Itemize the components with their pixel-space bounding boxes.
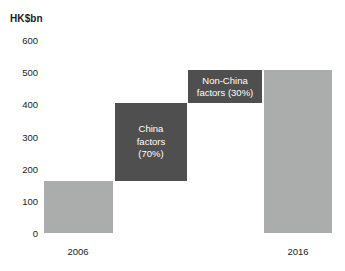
x-tick-2006: 2006 bbox=[67, 246, 88, 257]
bar-non-china-factors: Non-China factors (30%) bbox=[188, 70, 262, 103]
x-tick-2016: 2016 bbox=[287, 246, 308, 257]
bar-non-china-factors-label: Non-China factors (30%) bbox=[188, 74, 262, 99]
bar-china-factors: China factors (70%) bbox=[115, 103, 187, 181]
plot-area: China factors (70%) Non-China factors (3… bbox=[0, 0, 345, 271]
bar-2016-total bbox=[264, 70, 332, 233]
bar-2006-total bbox=[44, 181, 113, 233]
bar-china-factors-label: China factors (70%) bbox=[115, 123, 187, 161]
waterfall-chart: HK$bn 600 500 400 300 200 100 0 China fa… bbox=[0, 0, 345, 271]
